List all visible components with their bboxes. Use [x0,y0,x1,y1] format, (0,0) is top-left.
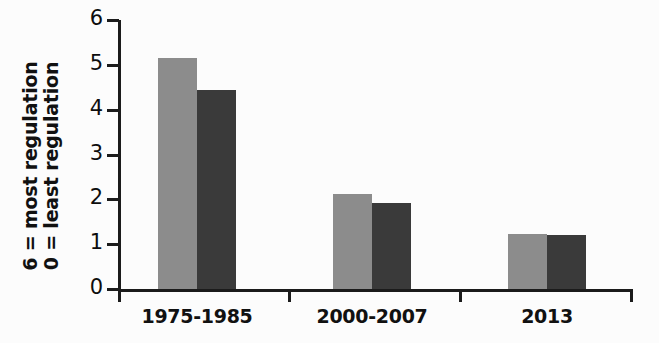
x-label-2000-2007: 2000-2007 [317,305,428,327]
x-tick-2 [459,289,462,302]
bars-layer [0,0,659,289]
bar-1975-1985-dark-gray-series [197,90,236,290]
x-tick-0 [118,289,121,302]
bar-2013-dark-gray-series [547,235,586,289]
x-tick-3 [630,289,633,302]
bar-chart: 6 = most regulation 0 = least regulation… [0,0,659,343]
x-label-1975-1985: 1975-1985 [142,305,253,327]
x-axis-line [118,289,633,292]
bar-2013-light-gray-series [508,234,547,289]
bar-2000-2007-dark-gray-series [372,203,411,289]
x-tick-1 [288,289,291,302]
x-label-2013: 2013 [521,305,573,327]
bar-1975-1985-light-gray-series [158,58,197,289]
bar-2000-2007-light-gray-series [333,194,372,289]
